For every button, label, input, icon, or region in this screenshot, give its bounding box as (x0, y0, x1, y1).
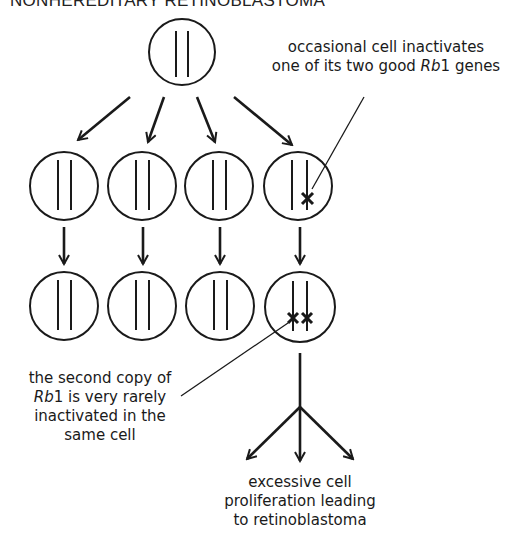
parent-cell (149, 19, 215, 85)
cell-normal (30, 272, 98, 340)
cell-normal (108, 152, 176, 220)
cell-normal (30, 152, 98, 220)
generation-2-cells (30, 272, 335, 342)
leader-line-top (312, 97, 364, 189)
retinoblastoma-diagram (0, 0, 506, 537)
division-arrows (78, 97, 292, 145)
annotation-outcome: excessive cell proliferation leading to … (210, 473, 390, 530)
growth-arrows (64, 227, 300, 264)
annotation-inactivation: occasional cell inactivates one of its t… (270, 38, 502, 76)
cell-normal (186, 272, 254, 340)
generation-1-cells (30, 152, 332, 220)
annotation-second-copy: the second copy of Rb1 is very rarely in… (14, 369, 186, 445)
cell-normal (108, 272, 176, 340)
proliferation-arrows (247, 353, 353, 461)
cell-normal (185, 152, 253, 220)
leader-line-bottom (181, 323, 288, 396)
cell-one-mutation (264, 152, 332, 220)
